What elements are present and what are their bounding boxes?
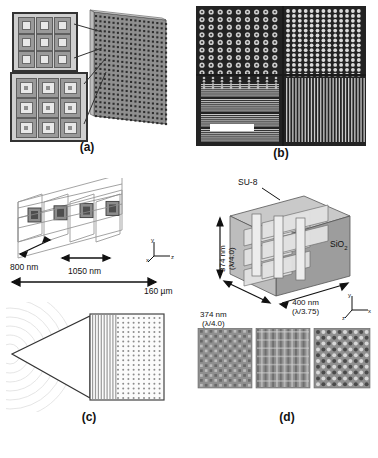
svg-text:x: x bbox=[146, 257, 149, 263]
panel-c-caption: (c) bbox=[54, 410, 124, 424]
dimension-width-label: 800 nm bbox=[10, 262, 38, 272]
scale-bar bbox=[210, 124, 254, 131]
dimension-width: 400 nm (λ/3.75) bbox=[292, 298, 319, 316]
inset-unit-cell-large bbox=[10, 72, 88, 142]
panel-c: 800 nm 1050 nm 160 µm z y x (c) bbox=[6, 176, 184, 426]
panel-a-caption: (a) bbox=[52, 140, 122, 154]
svg-text:z: z bbox=[342, 315, 345, 321]
dimension-depth: 374 nm (λ/4.0) bbox=[200, 310, 227, 328]
panel-d-axes: y x z bbox=[342, 294, 376, 322]
dimension-depth-label: 1050 nm bbox=[68, 266, 101, 276]
svg-text:y: y bbox=[348, 294, 351, 298]
panel-d: SU-8 SiO2 bbox=[196, 176, 374, 426]
svg-text:y: y bbox=[151, 238, 154, 243]
inset-unit-cell-small bbox=[12, 12, 78, 72]
svg-text:x: x bbox=[368, 308, 371, 314]
dimension-length-label: 160 µm bbox=[144, 286, 173, 296]
figure-container: (a) (b) bbox=[0, 0, 378, 458]
panel-b bbox=[196, 6, 366, 146]
dimension-height: 374 nm (λ/4.0) bbox=[218, 245, 236, 272]
panel-d-sem-strips bbox=[196, 328, 374, 392]
panel-b-caption: (b) bbox=[246, 146, 316, 160]
panel-a: (a) bbox=[6, 6, 174, 140]
panel-d-caption: (d) bbox=[252, 410, 322, 424]
sio2-label: SiO2 bbox=[330, 240, 347, 252]
beam-diffraction-schematic bbox=[6, 302, 184, 412]
svg-text:z: z bbox=[171, 254, 174, 260]
panel-c-axes: z y x bbox=[146, 238, 180, 264]
sio2-text: SiO2 bbox=[330, 239, 347, 249]
